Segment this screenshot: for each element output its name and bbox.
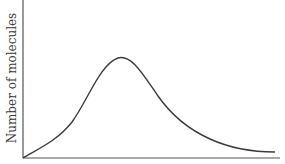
distribution-curve (23, 58, 275, 158)
distribution-chart: Number of molecules (0, 0, 285, 164)
y-axis-label: Number of molecules (5, 13, 19, 144)
chart-plot-area (0, 0, 285, 164)
